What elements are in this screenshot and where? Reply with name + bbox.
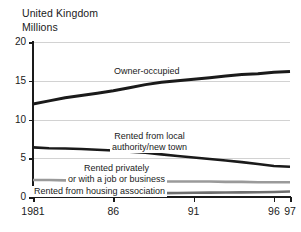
series-layer [0,0,301,232]
annotation-owner-occupied: Owner-occupied [112,66,182,77]
annotation-rented-local-authority: Rented from local authority/new town [110,131,189,153]
annotation-line: authority/new town [112,142,187,152]
annotation-line: Rented from housing association [34,186,165,196]
annotation-line: or with a job or business [68,174,165,184]
annotation-line: Rented privately [84,163,149,173]
annotation-rented-housing-association: Rented from housing association [32,186,167,197]
annotation-rented-privately: Rented privately or with a job or busine… [66,163,167,185]
chart-figure: United Kingdom Millions 0510152019818691… [0,0,301,232]
annotation-line: Rented from local [114,131,185,141]
annotation-line: Owner-occupied [114,66,180,76]
